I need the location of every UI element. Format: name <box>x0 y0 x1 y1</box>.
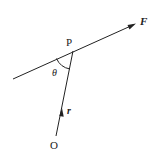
force-label: F <box>139 15 148 27</box>
point-label: P <box>66 36 72 48</box>
position-label: r <box>67 105 71 116</box>
force-diagram: P F θ r O <box>0 0 155 155</box>
angle-arc <box>57 59 71 70</box>
position-vector-line <box>56 51 73 136</box>
force-arrowhead-icon <box>128 24 137 30</box>
origin-label: O <box>50 139 58 151</box>
angle-label: θ <box>52 67 57 78</box>
